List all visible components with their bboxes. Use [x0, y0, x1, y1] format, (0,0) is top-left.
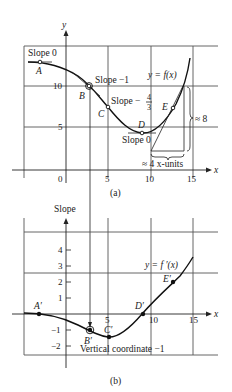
plot-b-xtick-10: 10 — [149, 315, 159, 325]
plot-b-yticks — [66, 250, 71, 346]
label-a: A — [35, 66, 42, 76]
derivative-figure: y x 0 5 10 15 5 10 A B C D E — [0, 0, 232, 392]
point-a — [38, 60, 42, 64]
plot-b-ytick-4: 4 — [58, 245, 63, 255]
rise-label: ≈ 8 — [195, 114, 208, 124]
annotation-slope-c-num: 4 — [147, 93, 151, 102]
plot-b-xtick-5: 5 — [105, 315, 110, 325]
tangent-e — [151, 86, 183, 151]
point-c — [106, 105, 110, 109]
plot-b-ytick-1: 1 — [58, 293, 63, 303]
point-d-prime — [141, 312, 145, 316]
plot-a-x-axis-label: x — [213, 165, 219, 175]
run-label: ≈ 4 x-units — [142, 159, 183, 169]
point-c-prime — [107, 335, 111, 339]
label-a-prime: A′ — [33, 301, 43, 311]
caption-b: (b) — [110, 376, 121, 387]
point-b-prime — [88, 328, 92, 332]
plot-a-xtick-0: 0 — [58, 174, 63, 184]
plot-b-ytick-neg1: −1 — [51, 325, 61, 335]
rise-brace — [187, 87, 193, 151]
point-b — [87, 84, 91, 88]
plot-a-xtick-10: 10 — [145, 174, 155, 184]
label-c-prime: C′ — [104, 325, 113, 335]
plot-a-xtick-5: 5 — [105, 174, 110, 184]
plot-a: y x 0 5 10 15 5 10 A B C D E — [12, 20, 219, 328]
plot-a-y-axis-label: y — [61, 20, 67, 30]
plot-a-xtick-15: 15 — [187, 174, 197, 184]
label-d: D — [137, 120, 145, 130]
caption-a: (a) — [110, 188, 121, 199]
plot-b: Slope x 4 3 2 1 −1 −2 5 10 15 A′ B′ — [12, 204, 219, 387]
plot-b-ytick-3: 3 — [58, 261, 63, 271]
annotation-slope-c-den: 3 — [147, 103, 151, 112]
label-e-prime: E′ — [162, 274, 172, 284]
point-a-prime — [37, 312, 41, 316]
point-e — [171, 106, 175, 110]
note-vertical-coordinate: Vertical coordinate −1 — [80, 344, 165, 354]
plot-b-xtick-15: 15 — [189, 315, 199, 325]
label-b: B — [79, 91, 85, 101]
curve-f-prime-label: y = f ′(x) — [144, 260, 178, 271]
plot-a-ytick-10: 10 — [53, 81, 63, 91]
annotation-slope-d: Slope 0 — [122, 135, 151, 145]
point-e-prime — [171, 280, 175, 284]
plot-b-ytick-2: 2 — [58, 277, 63, 287]
curve-f-label: y = f(x) — [147, 70, 177, 81]
plot-b-x-axis-label: x — [213, 309, 219, 319]
plot-b-ytick-neg2: −2 — [51, 341, 61, 351]
annotation-slope-c: Slope − — [111, 96, 140, 106]
annotation-slope-a: Slope 0 — [28, 48, 57, 58]
label-d-prime: D′ — [134, 301, 145, 311]
label-e: E — [161, 102, 168, 112]
plot-b-y-axis-label: Slope — [54, 204, 76, 214]
annotation-slope-b: Slope −1 — [95, 75, 129, 85]
plot-a-ytick-5: 5 — [58, 122, 63, 132]
label-c: C — [98, 109, 105, 119]
